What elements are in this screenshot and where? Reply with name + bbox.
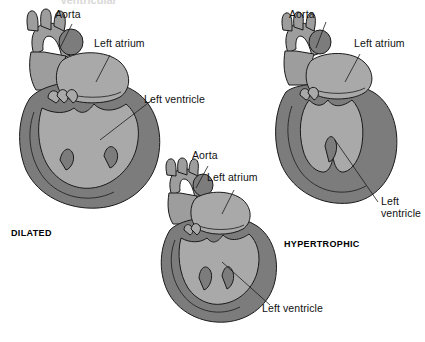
label-aorta-dilated: Aorta	[55, 9, 81, 21]
label-left-ventricle-dilated: Left ventricle	[144, 94, 205, 106]
vessel-branch-1-middle	[166, 159, 176, 176]
left-ventricle-cavity-hypertrophic	[300, 100, 363, 172]
label-left-atrium-middle: Left atrium	[207, 172, 258, 184]
label-left-atrium-dilated: Left atrium	[94, 38, 145, 50]
label-left-ventricle-hypertrophic: Left ventricle	[381, 196, 425, 219]
pulmonary-trunk-hypertrophic	[309, 30, 331, 54]
caption-hypertrophic: HYPERTROPHIC	[284, 239, 360, 249]
vessel-branch-1-dilated	[27, 11, 38, 31]
vessel-branch-2-middle	[178, 158, 188, 175]
vessel-branch-2-dilated	[41, 9, 52, 30]
label-aorta-middle: Aorta	[192, 150, 218, 162]
label-left-ventricle-middle: Left ventricle	[262, 303, 323, 315]
label-aorta-hypertrophic: Aorta	[289, 9, 315, 21]
caption-dilated: DILATED	[11, 228, 52, 238]
label-left-atrium-hypertrophic: Left atrium	[354, 38, 405, 50]
